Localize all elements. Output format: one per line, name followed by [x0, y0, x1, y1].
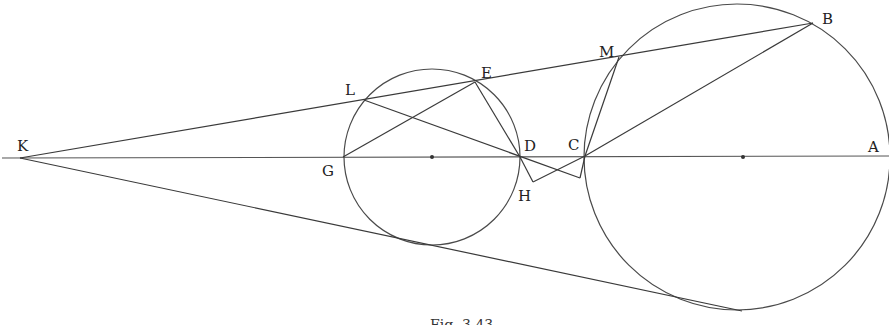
label-G: G [322, 162, 334, 180]
segment-LD [364, 100, 580, 178]
label-B: B [822, 10, 833, 28]
label-L: L [345, 81, 355, 99]
tangent-line [20, 158, 742, 311]
segment-ED [475, 82, 520, 157]
figure-caption: Fig. 3.43 [430, 317, 493, 325]
label-M: M [599, 43, 614, 61]
segment-HC [533, 156, 585, 182]
label-H: H [518, 187, 531, 205]
segment-GE [343, 82, 475, 157]
geometry-figure: K G L E D H C M B A Fig. 3.43 [0, 0, 889, 325]
label-E: E [481, 64, 492, 82]
center-line [2, 156, 889, 158]
label-D: D [524, 137, 536, 155]
segment-CM [585, 57, 619, 156]
label-K: K [17, 137, 29, 155]
label-A: A [867, 138, 879, 156]
secant-line-KB [20, 23, 813, 158]
small-circle-center [430, 155, 434, 159]
label-C: C [568, 136, 579, 154]
large-circle-center [741, 155, 745, 159]
